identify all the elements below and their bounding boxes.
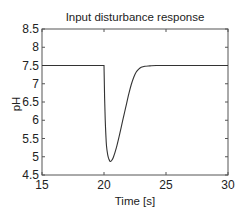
chart: Input disturbance response 15202530 4.55… [0, 0, 246, 216]
y-tick-label: 6.5 [22, 95, 39, 109]
y-tick-label: 5 [32, 150, 39, 164]
y-tick-label: 7.5 [22, 59, 39, 73]
y-tick-label: 6 [32, 113, 39, 127]
y-tick-label: 7 [32, 77, 39, 91]
y-tick-label: 8 [32, 40, 39, 54]
y-axis-label: pH [10, 97, 22, 112]
x-axis-label: Time [s] [115, 195, 155, 207]
x-tick-label: 20 [97, 178, 111, 192]
y-tick-label: 4.5 [22, 168, 39, 182]
plot-frame [42, 29, 228, 175]
plot-area [42, 29, 228, 175]
chart-title: Input disturbance response [66, 11, 205, 23]
x-tick-label: 30 [221, 178, 235, 192]
x-tick-label: 25 [159, 178, 173, 192]
y-tick-label: 5.5 [22, 132, 39, 146]
y-tick-label: 8.5 [22, 22, 39, 36]
